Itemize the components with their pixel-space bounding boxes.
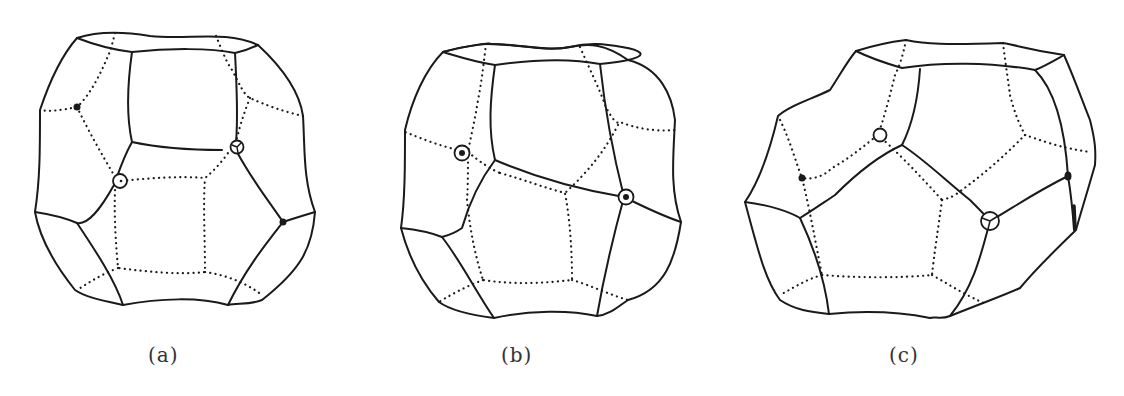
filled-dot-marker xyxy=(1065,172,1072,181)
panel-label-a: (a) xyxy=(148,343,179,367)
open-circle-marker xyxy=(874,129,887,142)
panel-label-b: (b) xyxy=(501,343,532,367)
figure-canvas xyxy=(0,0,1124,396)
polyhedron-a xyxy=(35,33,315,305)
polyhedron-b xyxy=(401,43,681,318)
panel-label-c: (c) xyxy=(889,343,919,367)
polyhedron-c xyxy=(745,40,1095,318)
filled-dot-marker xyxy=(280,219,287,226)
filled-dot-marker xyxy=(74,104,81,111)
filled-dot-marker xyxy=(799,175,806,182)
